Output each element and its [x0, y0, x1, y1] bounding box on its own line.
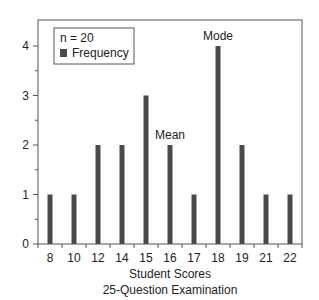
- bar-22: [288, 195, 293, 245]
- bar-18: [216, 46, 221, 244]
- annotation-mean: Mean: [155, 128, 185, 142]
- x-axis-label: Student Scores: [129, 267, 211, 281]
- legend-entry-frequency: Frequency: [72, 46, 129, 60]
- bar-17: [192, 195, 197, 245]
- x-tick-label: 12: [91, 251, 105, 265]
- bar-12: [96, 145, 101, 244]
- y-tick-label: 1: [22, 188, 29, 202]
- bar-16: [168, 145, 173, 244]
- x-tick-label: 17: [187, 251, 201, 265]
- bar-8: [48, 195, 53, 245]
- annotations: ModeMean: [155, 29, 233, 142]
- y-tick-label: 4: [22, 39, 29, 53]
- bar-10: [72, 195, 77, 245]
- x-tick-label: 16: [163, 251, 177, 265]
- x-tick-label: 21: [259, 251, 273, 265]
- y-tick-label: 0: [22, 237, 29, 251]
- x-tick-label: 22: [283, 251, 297, 265]
- bar-21: [264, 195, 269, 245]
- x-axis: 810121415161718192122: [38, 244, 302, 265]
- legend-swatch: [60, 49, 67, 57]
- x-tick-label: 19: [235, 251, 249, 265]
- x-tick-label: 10: [67, 251, 81, 265]
- y-axis: 01234: [22, 39, 38, 251]
- x-tick-label: 14: [115, 251, 129, 265]
- x-axis-label-line2: 25-Question Examination: [103, 283, 238, 297]
- bar-14: [120, 145, 125, 244]
- y-tick-label: 3: [22, 89, 29, 103]
- x-tick-label: 8: [47, 251, 54, 265]
- legend-title: n = 20: [60, 31, 94, 45]
- bar-19: [240, 145, 245, 244]
- x-tick-label: 15: [139, 251, 153, 265]
- annotation-mode: Mode: [203, 29, 233, 43]
- frequency-bar-chart: 01234 810121415161718192122 ModeMean n =…: [0, 0, 319, 300]
- bars: [48, 46, 293, 244]
- bar-15: [144, 96, 149, 245]
- legend: n = 20 Frequency: [54, 28, 134, 64]
- y-tick-label: 2: [22, 138, 29, 152]
- x-tick-label: 18: [211, 251, 225, 265]
